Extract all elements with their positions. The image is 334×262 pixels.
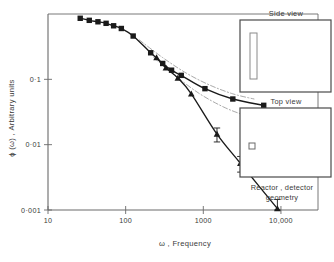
data-point-square — [148, 50, 153, 55]
chart-canvas: 0·10·010·001 10100100010,000 ω , Frequen… — [0, 0, 334, 262]
inset-side-view: Side view — [240, 9, 331, 92]
reference-curve-upper-reference-curve — [139, 40, 254, 99]
y-axis-label: ϕ (ω) , Arbitrary units — [7, 79, 16, 156]
y-axis-ticks: 0·10·010·001 — [21, 75, 52, 215]
x-tick-label-2: 1000 — [195, 216, 212, 225]
data-point-square — [103, 21, 108, 26]
y-tick-label-2: 0·001 — [21, 206, 41, 215]
series-line-squares — [80, 18, 264, 105]
inset-caption-line2: geometry — [266, 193, 299, 202]
data-point-square — [130, 33, 135, 38]
data-point-square — [169, 67, 174, 72]
chart-figure: 0·10·010·001 10100100010,000 ω , Frequen… — [0, 0, 334, 262]
data-point-square — [230, 96, 235, 101]
reactor-side-shape — [250, 33, 257, 79]
data-point-square — [119, 26, 124, 31]
y-tick-label-0: 0·1 — [30, 75, 41, 84]
data-point-square — [179, 73, 184, 78]
x-axis-label: ω , Frequency — [159, 239, 211, 248]
inset-caption-line1: Reactor , detector — [251, 183, 314, 192]
data-point-square — [160, 61, 165, 66]
x-tick-label-1: 100 — [119, 216, 132, 225]
reference-curves — [139, 40, 256, 118]
inset-top-view: Top view — [240, 97, 331, 177]
y-tick-label-1: 0·01 — [25, 140, 41, 149]
data-point-square — [95, 19, 100, 24]
x-tick-label-3: 10,000 — [269, 216, 293, 225]
x-axis-ticks: 10100100010,000 — [44, 206, 293, 225]
data-point-square — [78, 16, 83, 21]
data-point-square — [87, 18, 92, 23]
data-point-square — [261, 103, 266, 108]
inset-side-view-title: Side view — [269, 9, 304, 18]
reactor-top-shape — [249, 143, 255, 149]
inset-top-view-title: Top view — [270, 97, 302, 106]
data-point-square — [202, 86, 207, 91]
data-point-square — [111, 23, 116, 28]
x-tick-label-0: 10 — [44, 216, 53, 225]
